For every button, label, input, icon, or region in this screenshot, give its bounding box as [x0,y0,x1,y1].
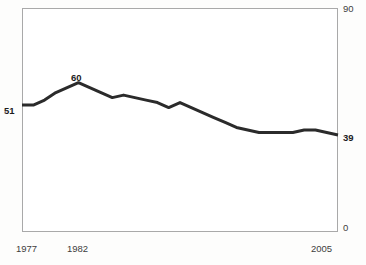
series-line [22,83,338,135]
series-peak-value-label: 60 [71,72,82,83]
y-axis-max-label: 90 [343,3,354,14]
series-end-value-label: 39 [343,132,354,143]
y-axis-min-label: 0 [343,222,348,233]
x-axis-last-tick-label: 2005 [311,243,332,254]
x-axis-first-tick-label: 1977 [16,243,37,254]
x-axis-mid-tick-label: 1982 [67,243,88,254]
line-chart: 90 0 51 60 39 1977 1982 2005 [0,0,366,265]
series-start-value-label: 51 [4,105,15,116]
plot-series-svg [0,0,366,265]
